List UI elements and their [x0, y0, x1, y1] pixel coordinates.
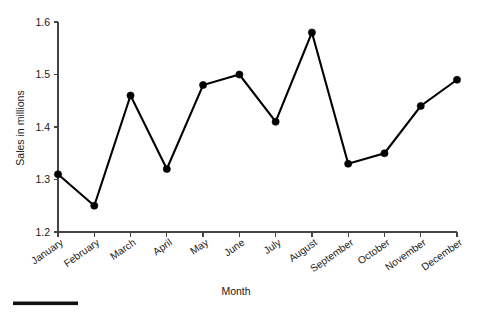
x-axis-ticks	[58, 232, 457, 237]
data-point	[163, 165, 170, 172]
data-point	[199, 81, 206, 88]
data-point	[127, 92, 134, 99]
y-axis-ticks: 1.21.31.41.51.6	[35, 16, 58, 238]
x-tick-label: February	[62, 236, 102, 269]
data-line-sales	[58, 33, 457, 206]
data-point	[345, 160, 352, 167]
chart-figure: Sales in millions 1.21.31.41.51.6 Januar…	[0, 0, 483, 312]
x-axis-tick-labels: JanuaryFebruaryMarchAprilMayJuneJulyAugu…	[29, 236, 464, 274]
y-tick-label: 1.2	[35, 226, 50, 238]
x-tick-label: January	[29, 236, 66, 266]
y-axis-title: Sales in millions	[14, 90, 26, 165]
data-point	[272, 118, 279, 125]
data-point	[308, 29, 315, 36]
data-point	[453, 76, 460, 83]
x-axis-title: Month	[221, 285, 250, 297]
y-tick-label: 1.4	[35, 121, 50, 133]
data-point	[236, 71, 243, 78]
y-tick-label: 1.6	[35, 16, 50, 28]
x-tick-label: May	[188, 236, 211, 257]
y-tick-label: 1.3	[35, 173, 50, 185]
data-point	[417, 102, 424, 109]
data-point-markers	[54, 29, 460, 209]
x-tick-label: June	[222, 236, 247, 258]
data-point	[91, 202, 98, 209]
line-chart-svg: Sales in millions 1.21.31.41.51.6 Januar…	[0, 0, 483, 312]
x-tick-label: July	[262, 236, 284, 256]
y-tick-label: 1.5	[35, 68, 50, 80]
footer-rule	[13, 302, 78, 306]
data-point	[54, 171, 61, 178]
x-tick-label: March	[108, 237, 138, 262]
data-point	[381, 150, 388, 157]
x-tick-label: December	[419, 236, 464, 272]
x-tick-label: April	[151, 237, 174, 258]
